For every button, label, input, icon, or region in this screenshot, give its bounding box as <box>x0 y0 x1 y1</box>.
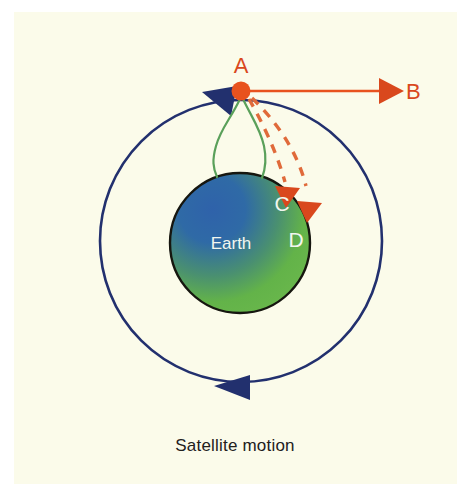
velocity-arrow-icon <box>379 78 404 104</box>
satellite-marker-icon <box>232 82 251 101</box>
label-earth: Earth <box>211 234 252 253</box>
label-point-c: C <box>274 192 289 215</box>
figure-caption: Satellite motion <box>0 436 470 456</box>
tether-line-right <box>243 99 265 178</box>
satellite-motion-diagram: A B C D Earth <box>0 0 470 496</box>
figure-page: A B C D Earth Satellite motion <box>0 0 470 496</box>
label-point-a: A <box>234 53 249 78</box>
label-point-b: B <box>406 79 421 104</box>
orbit-arrow-bottom-icon <box>214 375 250 400</box>
label-point-d: D <box>288 228 303 251</box>
